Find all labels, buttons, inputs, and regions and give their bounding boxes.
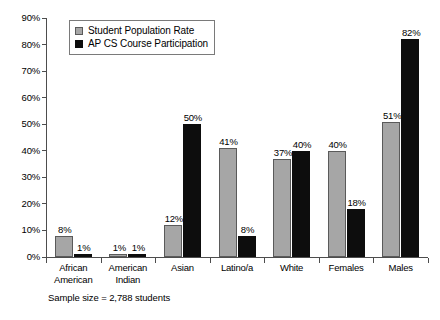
y-axis-tick-label: 30% <box>2 171 40 183</box>
bar-chart: 0%10%20%30%40%50%60%70%80%90% 8%1%1%1%12… <box>0 0 440 320</box>
x-axis-category-label: White <box>264 262 319 274</box>
x-axis-category-label: AmericanIndian <box>101 262 156 285</box>
bar: 1% <box>109 254 127 257</box>
bar-value-label: 40% <box>321 139 355 151</box>
x-axis-category-label: AfricanAmerican <box>46 262 101 285</box>
y-axis-tick: 40% <box>2 145 52 157</box>
bar: 1% <box>74 254 92 257</box>
plot-area: 0%10%20%30%40%50%60%70%80%90% 8%1%1%1%12… <box>46 18 428 258</box>
bar: 1% <box>128 254 146 257</box>
bar-value-label: 41% <box>212 136 246 148</box>
y-axis-tick-mark <box>42 177 47 178</box>
y-axis-tick-mark <box>42 230 47 231</box>
bar: 12% <box>164 225 182 257</box>
sample-size-footnote: Sample size = 2,788 students <box>48 292 170 304</box>
bar: 18% <box>347 209 365 257</box>
y-axis-tick-label: 0% <box>2 251 40 263</box>
bar: 8% <box>238 236 256 257</box>
legend-item-student-population-rate: Student Population Rate <box>75 24 208 37</box>
bar-value-label: 82% <box>394 27 428 39</box>
x-axis-category-label: Asian <box>155 262 210 274</box>
y-axis-tick-mark <box>42 150 47 151</box>
y-axis-tick: 90% <box>2 12 52 24</box>
bar-value-label: 8% <box>231 224 265 236</box>
x-axis-category-label-line: African <box>46 262 101 274</box>
bar-value-label: 1% <box>121 242 155 254</box>
x-axis-category-label-line: Asian <box>155 262 210 274</box>
bar-value-label: 1% <box>67 242 101 254</box>
bar: 37% <box>273 159 291 257</box>
y-axis-tick: 50% <box>2 118 52 130</box>
x-axis-category-label-line: Indian <box>101 274 156 286</box>
y-axis-tick-mark <box>42 18 47 19</box>
y-axis-tick: 80% <box>2 39 52 51</box>
y-axis-tick-mark <box>42 124 47 125</box>
y-axis-tick-mark <box>42 44 47 45</box>
y-axis-line <box>46 18 47 258</box>
bar: 82% <box>401 39 419 257</box>
legend-label-ap-cs-course-participation: AP CS Course Participation <box>88 38 208 50</box>
x-axis-category-label: Latino/a <box>210 262 265 274</box>
y-axis-tick: 70% <box>2 65 52 77</box>
x-axis-category-label: Females <box>319 262 374 274</box>
y-axis-tick-label: 60% <box>2 92 40 104</box>
x-axis-category-label: Males <box>373 262 428 274</box>
y-axis-tick-label: 40% <box>2 145 40 157</box>
bar: 50% <box>183 124 201 257</box>
y-axis-tick-label: 10% <box>2 224 40 236</box>
bar-value-label: 8% <box>48 224 82 236</box>
y-axis-tick-mark <box>42 71 47 72</box>
legend-item-ap-cs-course-participation: AP CS Course Participation <box>75 37 208 50</box>
legend-swatch-icon-ap-cs-course-participation <box>75 40 83 48</box>
x-axis-category-label-line: American <box>101 262 156 274</box>
y-axis-tick-label: 20% <box>2 198 40 210</box>
x-axis-category-label-line: White <box>264 262 319 274</box>
bar-value-label: 40% <box>285 139 319 151</box>
x-axis-line <box>46 257 428 258</box>
y-axis-tick-label: 80% <box>2 39 40 51</box>
y-axis-tick: 10% <box>2 224 52 236</box>
legend-swatch-icon-student-population-rate <box>75 27 83 35</box>
legend-label-student-population-rate: Student Population Rate <box>88 25 194 37</box>
x-axis-category-label-line: Males <box>373 262 428 274</box>
x-axis-tick-mark <box>428 258 429 263</box>
y-axis-tick-label: 90% <box>2 12 40 24</box>
y-axis-tick-mark <box>42 97 47 98</box>
y-axis-tick-label: 50% <box>2 118 40 130</box>
bar-value-label: 50% <box>176 112 210 124</box>
y-axis-tick: 30% <box>2 171 52 183</box>
bar-value-label: 18% <box>340 197 374 209</box>
legend: Student Population Rate AP CS Course Par… <box>69 20 215 55</box>
x-axis-category-label-line: Latino/a <box>210 262 265 274</box>
x-axis-category-label-line: Females <box>319 262 374 274</box>
y-axis-tick: 0% <box>2 251 52 263</box>
bar: 41% <box>219 148 237 257</box>
y-axis-tick: 20% <box>2 198 52 210</box>
bar: 40% <box>292 151 310 257</box>
x-axis-category-label-line: American <box>46 274 101 286</box>
y-axis-tick-mark <box>42 203 47 204</box>
bar: 51% <box>382 122 400 257</box>
y-axis-tick-label: 70% <box>2 65 40 77</box>
y-axis-tick: 60% <box>2 92 52 104</box>
